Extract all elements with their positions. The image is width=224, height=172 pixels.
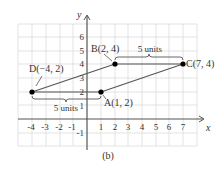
x-tick: 2 (113, 122, 118, 132)
bottom-brace-label: 5 units (54, 103, 79, 113)
x-tick: 5 (154, 122, 159, 132)
bottom-brace-icon (32, 96, 101, 102)
point-label-c: C(7, 4) (186, 58, 214, 70)
y-tick: 2 (80, 87, 85, 97)
y-axis-label: y (76, 9, 82, 20)
figure-caption: (b) (102, 150, 114, 162)
point-d (29, 89, 34, 94)
x-tick: 3 (126, 122, 131, 132)
x-tick: -2 (55, 122, 63, 132)
point-c (180, 61, 185, 66)
y-tick: 6 (80, 32, 85, 42)
y-tick: -1 (77, 128, 85, 138)
y-tick: 4 (80, 59, 85, 69)
coordinate-diagram: -4 -3 -2 -1 1 2 3 4 5 6 7 -1 1 2 3 4 5 6… (0, 0, 224, 172)
d-leader (36, 76, 42, 86)
point-label-b: B(2, 4) (91, 43, 119, 55)
x-tick: -1 (68, 122, 76, 132)
y-tick: 1 (80, 101, 85, 111)
point-b (112, 61, 117, 66)
x-tick: 6 (167, 122, 172, 132)
y-tick: 3 (80, 73, 85, 83)
top-brace-icon (115, 54, 183, 60)
b-leader (104, 54, 112, 61)
x-tick: 4 (140, 122, 145, 132)
y-tick: 5 (80, 46, 85, 56)
x-axis-label: x (205, 122, 211, 133)
top-brace-label: 5 units (138, 44, 163, 54)
point-label-d: D(−4, 2) (29, 63, 64, 75)
x-tick: -3 (41, 122, 49, 132)
x-tick: 7 (181, 122, 186, 132)
x-tick: 1 (99, 122, 104, 132)
point-label-a: A(1, 2) (104, 97, 133, 109)
point-a (98, 89, 103, 94)
x-tick: -4 (27, 122, 35, 132)
